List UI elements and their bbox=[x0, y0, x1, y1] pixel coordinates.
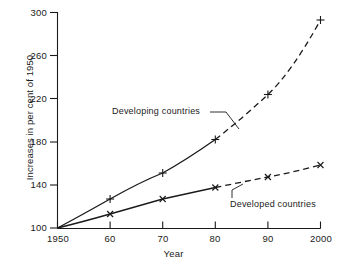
data-point-marker bbox=[106, 195, 114, 203]
x-axis-title: Year bbox=[0, 248, 347, 259]
leader-line-developing bbox=[210, 112, 239, 129]
axis-lines bbox=[58, 12, 321, 229]
x-tick-label-2000: 2000 bbox=[296, 233, 346, 244]
x-tick-label-90: 90 bbox=[246, 233, 290, 244]
x-tick-label-70: 70 bbox=[141, 233, 185, 244]
x-tick-label-60: 60 bbox=[88, 233, 132, 244]
chart-figure: 300 260 220 180 140 100 1950 60 70 80 90… bbox=[0, 0, 347, 264]
data-point-marker bbox=[317, 16, 325, 24]
series-developing-dashed bbox=[215, 20, 320, 140]
x-tick-label-80: 80 bbox=[193, 233, 237, 244]
series-label-developing: Developing countries bbox=[112, 106, 200, 116]
y-axis-title: Increases in per cent of 1950 bbox=[24, 43, 35, 193]
x-tick-label-1950: 1950 bbox=[33, 233, 83, 244]
y-tick-label-100: 100 bbox=[5, 222, 47, 233]
y-tick-label-300: 300 bbox=[5, 7, 47, 18]
series-developed-solid bbox=[58, 188, 216, 229]
x-axis-ticks bbox=[58, 222, 321, 229]
series-developing-solid bbox=[58, 140, 216, 229]
y-axis-ticks bbox=[50, 13, 58, 229]
chart-plot-area bbox=[0, 0, 347, 264]
leader-line-developed bbox=[232, 184, 243, 198]
data-point-marker bbox=[159, 169, 167, 177]
series-label-developed: Developed countries bbox=[230, 199, 316, 209]
